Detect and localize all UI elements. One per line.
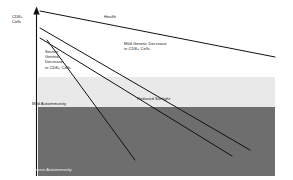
mild-autoimmunity-band (38, 77, 275, 107)
health-band (38, 27, 275, 77)
severity-bands (38, 27, 275, 176)
severe-autoimmunity-band (38, 107, 275, 176)
cd8-autoimmunity-diagram: CD8+ Cells Health Mild Genetic Decrease … (0, 0, 293, 180)
diagram-canvas (0, 0, 293, 180)
y-axis-title: CD8+ Cells (12, 14, 34, 24)
